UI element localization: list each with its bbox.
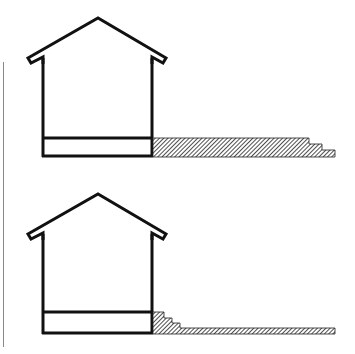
- top-ground-hatch: [153, 138, 335, 157]
- top-roof: [28, 18, 166, 64]
- top-ground: [153, 138, 335, 157]
- bottom-ground-hatch: [153, 312, 335, 334]
- diagram-canvas: [0, 0, 355, 354]
- bottom-house: [28, 194, 166, 334]
- top-house: [28, 18, 166, 157]
- bottom-ground: [153, 312, 335, 334]
- bottom-roof: [28, 194, 166, 240]
